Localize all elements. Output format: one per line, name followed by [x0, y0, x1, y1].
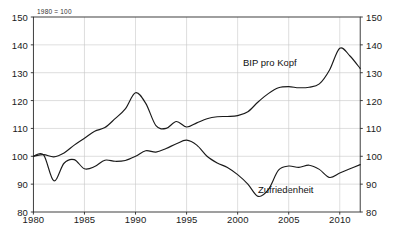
data-series-group — [33, 48, 360, 197]
chart-figure: 150 140 130 120 110 100 90 80 150 140 13… — [0, 0, 397, 234]
gridlines — [33, 17, 360, 212]
series-line-bip-pro-kopf — [33, 48, 360, 157]
plot-frame — [31, 17, 363, 215]
series-line-zufriedenheit — [33, 140, 360, 196]
figure-caption-strip — [0, 229, 397, 234]
plot-canvas — [0, 0, 397, 234]
